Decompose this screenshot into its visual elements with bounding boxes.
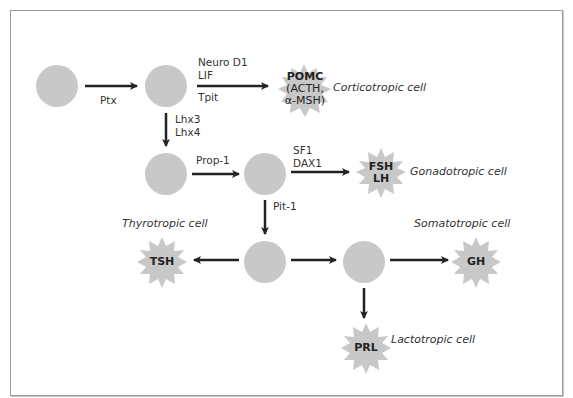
progenitor-cell-4: [244, 153, 286, 195]
label-dax1: DAX1: [293, 157, 322, 170]
hormone-pomc: POMC (ACTH, α-MSH): [282, 71, 328, 107]
cell-type-thyrotropic: Thyrotropic cell: [122, 217, 208, 230]
cell-type-corticotropic: Corticotropic cell: [333, 81, 426, 94]
hormone-pomc-msh: α-MSH): [282, 95, 328, 107]
label-lhx3: Lhx3: [175, 113, 200, 126]
progenitor-cell-6: [343, 241, 385, 283]
diagram-canvas: [0, 0, 573, 398]
hormone-fsh-lh: FSH LH: [366, 161, 396, 185]
cell-type-somatotropic: Somatotropic cell: [414, 217, 510, 230]
label-prop1: Prop-1: [196, 154, 230, 167]
hormone-prl: PRL: [351, 342, 381, 354]
progenitor-cell-3: [145, 153, 187, 195]
label-lhx4: Lhx4: [175, 126, 200, 139]
label-tpit: Tpit: [198, 91, 218, 104]
hormone-gh: GH: [462, 256, 490, 268]
progenitor-cell-1: [36, 65, 78, 107]
label-ptx: Ptx: [100, 94, 117, 107]
label-sf1: SF1: [293, 144, 312, 157]
label-neuro-d1: Neuro D1: [198, 56, 248, 69]
progenitor-cell-2: [145, 65, 187, 107]
progenitor-cell-5: [244, 241, 286, 283]
cell-type-gonadotropic: Gonadotropic cell: [410, 165, 507, 178]
cell-type-lactotropic: Lactotropic cell: [391, 333, 475, 346]
label-pit1: Pit-1: [273, 200, 297, 213]
hormone-tsh: TSH: [146, 256, 178, 268]
label-lif: LIF: [198, 69, 213, 82]
hormone-lh: LH: [366, 173, 396, 185]
